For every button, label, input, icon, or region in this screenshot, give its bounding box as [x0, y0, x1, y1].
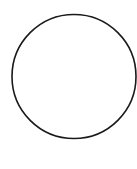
circle-shape [12, 15, 136, 139]
diagram-canvas [0, 0, 137, 169]
diagram-svg [0, 0, 137, 169]
